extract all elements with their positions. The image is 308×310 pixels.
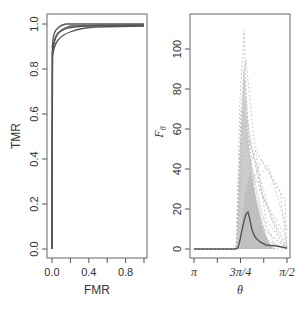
y-tick-4: 0.8 <box>28 61 40 76</box>
roc-curve-2 <box>52 26 144 249</box>
y-tick-4: 80 <box>171 83 183 95</box>
y-axis-ticks <box>185 49 190 249</box>
y-axis-ticks <box>42 24 47 249</box>
y-tick-2: 0.4 <box>28 151 40 166</box>
x-axis-title: θ <box>237 283 243 297</box>
roc-curve-3 <box>52 25 144 249</box>
y-axis-title: Fθ <box>152 126 168 138</box>
y-tick-2: 40 <box>171 163 183 175</box>
y-tick-5: 1.0 <box>28 16 40 31</box>
roc-plot: 0.0 0.2 0.4 0.6 0.8 1.0 0.0 0.4 0.8 FMR … <box>9 14 147 297</box>
svg-text:Fθ: Fθ <box>152 126 168 138</box>
x-axis-title: FMR <box>84 283 110 297</box>
x-axis-ticks <box>194 258 287 263</box>
y-axis-title: TMR <box>9 123 23 149</box>
x-tick-2: 0.8 <box>118 266 133 278</box>
x-tick-2: π/2 <box>279 265 294 279</box>
figure: 0.0 0.2 0.4 0.6 0.8 1.0 0.0 0.4 0.8 FMR … <box>0 0 308 310</box>
y-tick-3: 60 <box>171 123 183 135</box>
f-theta-plot: 0 20 40 60 80 100 π 3π/4 π/2 θ Fθ <box>152 14 295 297</box>
y-tick-0: 0 <box>171 246 183 252</box>
roc-curves <box>52 24 144 249</box>
roc-curve-4 <box>52 26 144 250</box>
x-tick-0: π <box>191 265 198 279</box>
x-tick-labels: π 3π/4 π/2 <box>191 265 295 279</box>
y-axis-title-sub: θ <box>159 126 168 130</box>
y-tick-1: 20 <box>171 203 183 215</box>
roc-curve-1 <box>52 24 144 249</box>
y-tick-5: 100 <box>171 40 183 58</box>
x-tick-0: 0.0 <box>44 266 59 278</box>
plot-frame <box>47 14 147 258</box>
y-tick-labels: 0 20 40 60 80 100 <box>171 40 183 252</box>
y-tick-1: 0.2 <box>28 196 40 211</box>
y-tick-3: 0.6 <box>28 106 40 121</box>
x-tick-1: 3π/4 <box>229 265 251 279</box>
y-tick-labels: 0.0 0.2 0.4 0.6 0.8 1.0 <box>28 16 40 256</box>
y-tick-0: 0.0 <box>28 241 40 256</box>
x-tick-labels: 0.0 0.4 0.8 <box>44 266 133 278</box>
x-tick-1: 0.4 <box>81 266 96 278</box>
x-axis-ticks <box>52 258 144 263</box>
